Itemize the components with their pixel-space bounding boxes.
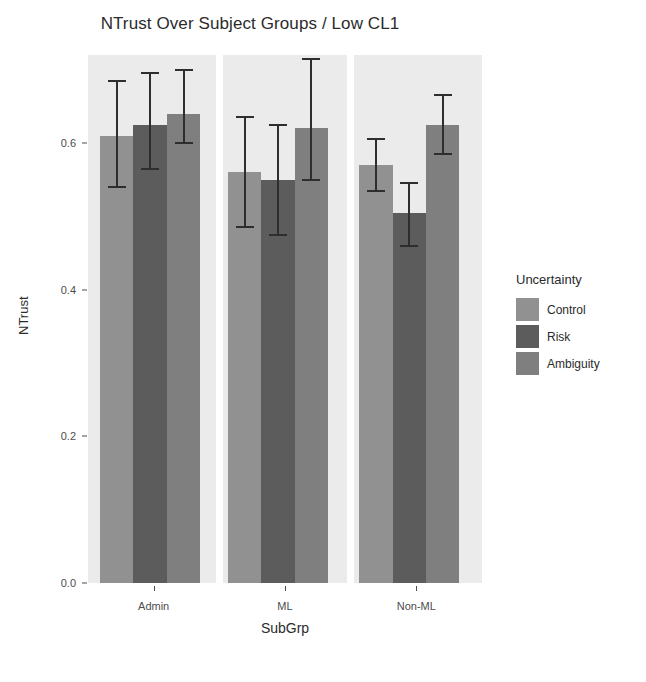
error-bar-cap-lower [269, 234, 287, 236]
error-bar-line [442, 95, 444, 154]
error-bar-cap-upper [400, 182, 418, 184]
error-bar-line [244, 117, 246, 227]
error-bar-cap-lower [141, 168, 159, 170]
legend-label-risk: Risk [547, 330, 570, 344]
error-bar-cap-upper [108, 80, 126, 82]
bar-ambiguity-admin [167, 114, 200, 583]
chart-title: NTrust Over Subject Groups / Low CL1 [0, 14, 500, 34]
legend-item-ambiguity[interactable]: Ambiguity [516, 350, 600, 377]
y-tick-label: 0.4 [36, 284, 76, 296]
error-bar-line [408, 183, 410, 245]
y-tick-mark [82, 436, 87, 437]
bar-control-ml [228, 172, 261, 583]
error-bar-cap-lower [302, 179, 320, 181]
x-tick-label-admin: Admin [138, 600, 169, 612]
error-bar-cap-lower [175, 142, 193, 144]
facet-separator [216, 55, 223, 583]
bar-risk-non-ml [393, 213, 426, 583]
legend-label-ambiguity: Ambiguity [547, 357, 600, 371]
error-bar-cap-lower [236, 226, 254, 228]
legend-swatch-control [516, 298, 539, 321]
y-tick-label: 0.2 [36, 430, 76, 442]
bar-risk-ml [261, 180, 294, 583]
error-bar-cap-upper [434, 94, 452, 96]
legend-item-risk[interactable]: Risk [516, 323, 600, 350]
legend-label-control: Control [547, 303, 586, 317]
bar-ambiguity-ml [295, 128, 328, 583]
legend-swatch-risk [516, 325, 539, 348]
error-bar-cap-upper [141, 72, 159, 74]
y-tick-label: 0.0 [36, 577, 76, 589]
error-bar-line [116, 81, 118, 187]
bar-chart: NTrust Over Subject Groups / Low CL1 NTr… [0, 0, 646, 682]
x-tick-mark [285, 586, 286, 591]
error-bar-line [375, 139, 377, 190]
y-tick-label: 0.6 [36, 137, 76, 149]
error-bar-cap-upper [236, 116, 254, 118]
legend-items: ControlRiskAmbiguity [516, 296, 600, 377]
x-tick-label-non-ml: Non-ML [397, 600, 436, 612]
facet-separator [347, 55, 354, 583]
bar-control-admin [100, 136, 133, 583]
x-tick-mark [416, 586, 417, 591]
y-tick-mark [82, 583, 87, 584]
error-bar-cap-lower [400, 245, 418, 247]
error-bar-cap-upper [302, 58, 320, 60]
bar-risk-admin [133, 125, 166, 583]
legend-swatch-ambiguity [516, 352, 539, 375]
error-bar-cap-upper [269, 124, 287, 126]
legend-title: Uncertainty [516, 272, 600, 287]
legend-item-control[interactable]: Control [516, 296, 600, 323]
error-bar-line [149, 73, 151, 168]
error-bar-cap-lower [367, 190, 385, 192]
error-bar-line [277, 125, 279, 235]
x-tick-label-ml: ML [277, 600, 292, 612]
x-axis-title: SubGrp [88, 620, 482, 636]
error-bar-cap-lower [108, 186, 126, 188]
error-bar-cap-lower [434, 153, 452, 155]
y-tick-mark [82, 143, 87, 144]
y-tick-mark [82, 289, 87, 290]
bar-ambiguity-non-ml [426, 125, 459, 583]
error-bar-line [310, 59, 312, 180]
legend: Uncertainty ControlRiskAmbiguity [516, 272, 600, 377]
error-bar-cap-upper [175, 69, 193, 71]
error-bar-line [183, 70, 185, 143]
error-bar-cap-upper [367, 138, 385, 140]
bar-control-non-ml [359, 165, 392, 583]
y-axis-title: NTrust [16, 296, 31, 335]
plot-panel [88, 55, 482, 583]
x-tick-mark [154, 586, 155, 591]
